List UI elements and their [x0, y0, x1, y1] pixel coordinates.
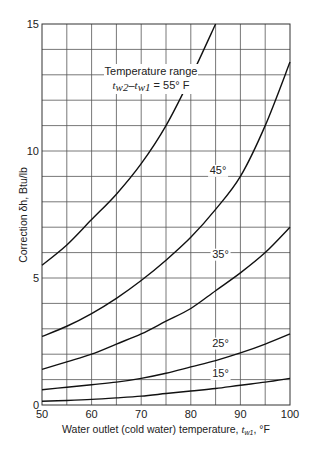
- y-axis-label: Correction δh, Btu/lb: [17, 167, 29, 263]
- curve-label: 25°: [212, 337, 229, 349]
- y-tick-label: 5: [33, 272, 39, 284]
- x-tick-label: 90: [234, 408, 246, 420]
- y-tick-label: 10: [27, 145, 39, 157]
- x-axis-label: Water outlet (cold water) temperature, t…: [62, 423, 270, 436]
- curve-label: 15°: [212, 367, 229, 379]
- chart: 5060708090100 051015 Water outlet (cold …: [0, 0, 309, 451]
- y-tick-label: 15: [27, 18, 39, 30]
- annotation-line1: Temperature range: [105, 65, 198, 77]
- annotation-temperature-range: Temperature range tw2–tw1 = 55° F: [104, 64, 198, 94]
- x-tick-label: 60: [85, 408, 97, 420]
- curve-label: 45°: [210, 164, 227, 176]
- x-tick-label: 100: [281, 408, 299, 420]
- x-tick-label: 70: [135, 408, 147, 420]
- annotation-line2: tw2–tw1 = 55° F: [113, 79, 190, 93]
- x-axis-ticks: 5060708090100: [36, 408, 299, 420]
- curve-55deg: [42, 24, 216, 265]
- y-tick-label: 0: [33, 399, 39, 411]
- curve-label: 35°: [212, 248, 229, 260]
- x-tick-label: 80: [185, 408, 197, 420]
